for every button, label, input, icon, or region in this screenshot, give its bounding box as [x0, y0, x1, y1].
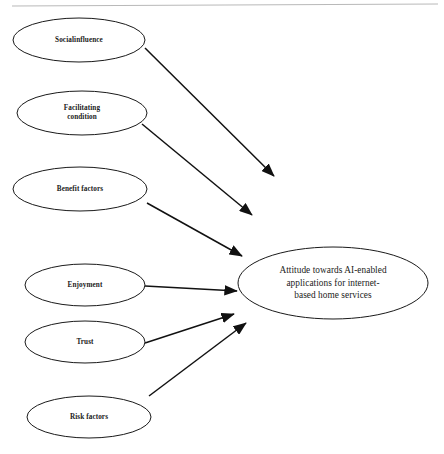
node-ellipse-social-influence[interactable]	[13, 18, 145, 62]
arrow-trust-to-outcome	[145, 314, 234, 343]
arrow-social-influence-to-outcome	[145, 48, 274, 176]
arrow-enjoyment-to-outcome	[145, 286, 237, 291]
diagram-canvas	[0, 0, 444, 454]
node-ellipse-risk-factors[interactable]	[27, 396, 151, 438]
header-rule	[12, 4, 438, 6]
research-model-diagram: Socialinfluence Facilitating condition B…	[0, 0, 444, 454]
node-ellipse-facilitating-condition[interactable]	[17, 91, 147, 135]
node-ellipse-enjoyment[interactable]	[25, 264, 145, 306]
node-ellipse-attitude-outcome[interactable]	[238, 247, 428, 319]
node-ellipse-benefit-factors[interactable]	[13, 167, 147, 211]
nodes-group	[13, 18, 428, 438]
arrow-benefit-factors-to-outcome	[147, 203, 242, 256]
arrows-group	[142, 48, 274, 396]
arrow-risk-factors-to-outcome	[149, 323, 246, 396]
node-ellipse-trust[interactable]	[25, 321, 145, 363]
